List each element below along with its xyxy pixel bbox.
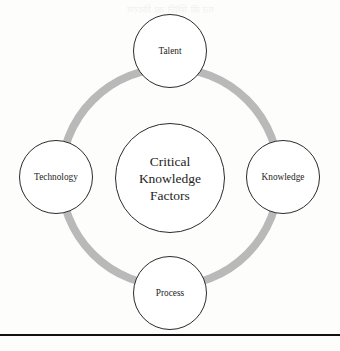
node-talent-label: Talent: [155, 45, 184, 57]
node-knowledge: Knowledge: [246, 140, 320, 214]
node-technology: Technology: [19, 140, 93, 214]
center-label-line-2: Knowledge: [139, 171, 201, 186]
center-label-line-3: Factors: [150, 188, 190, 203]
center-label-line-1: Critical: [150, 154, 191, 169]
node-process: Process: [133, 256, 207, 330]
critical-knowledge-factors-diagram: Talent Knowledge Process Technology Crit…: [0, 0, 340, 351]
node-center-critical-knowledge-factors: CriticalKnowledgeFactors: [115, 123, 225, 233]
figure-page: गत की स्थिति का विवरण Talent Knowledge P…: [0, 0, 340, 351]
bottom-horizontal-rule: [0, 334, 340, 336]
center-label: CriticalKnowledgeFactors: [136, 153, 204, 204]
node-talent: Talent: [133, 14, 207, 88]
node-process-label: Process: [153, 287, 187, 299]
node-technology-label: Technology: [31, 171, 81, 183]
node-knowledge-label: Knowledge: [259, 171, 308, 183]
